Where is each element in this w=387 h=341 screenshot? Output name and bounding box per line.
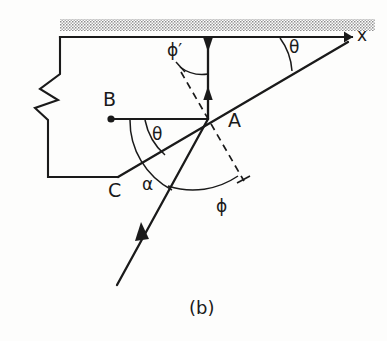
steep-inclined-ray — [117, 119, 208, 285]
label-point-c: C — [108, 181, 121, 200]
label-angle-theta-lower: θ — [152, 126, 162, 143]
figure-container: A B C x θ θ α ϕ ϕ′ (b) — [0, 0, 387, 341]
label-point-a: A — [228, 111, 241, 130]
phi-prime-arc-end-tick — [176, 62, 185, 72]
dashed-line-end-tick — [237, 176, 250, 183]
label-angle-theta-upper: θ — [289, 39, 299, 56]
hatched-surface-band — [60, 19, 375, 31]
x-axis-arrowhead — [344, 32, 353, 43]
vertical-up-arrowhead — [203, 86, 212, 100]
vertical-down-arrowhead — [203, 38, 212, 52]
point-b-marker — [107, 115, 114, 122]
label-angle-alpha: α — [142, 176, 153, 193]
label-point-b: B — [103, 90, 116, 109]
label-axis-x: x — [357, 27, 367, 44]
label-angle-phi-prime: ϕ′ — [167, 42, 182, 59]
figure-drawing — [0, 0, 387, 341]
figure-caption: (b) — [189, 299, 214, 317]
label-angle-phi: ϕ — [216, 198, 227, 215]
angle-arc-phi — [168, 176, 238, 190]
